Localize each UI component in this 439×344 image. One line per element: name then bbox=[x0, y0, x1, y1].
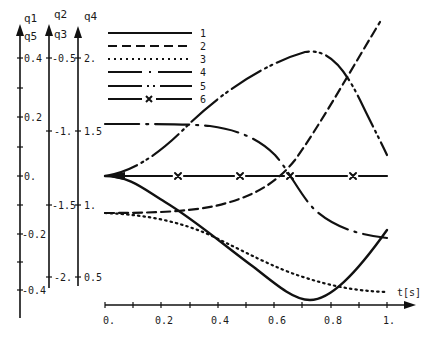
y-axis-q2: q2 q3 -0.5 -1. -1.5 -2. bbox=[45, 8, 76, 288]
legend bbox=[108, 33, 192, 102]
arrow-up-icon bbox=[45, 24, 53, 36]
axis-label-q4: q4 bbox=[84, 10, 98, 23]
tick-label: 0.2 bbox=[155, 315, 173, 326]
tick-label: 0.4 bbox=[24, 53, 42, 64]
x-axis: 0. 0.2 0.4 0.6 0.8 1. t[s] bbox=[103, 287, 421, 326]
arrow-right-icon bbox=[404, 301, 416, 309]
tick-label: -0.5 bbox=[52, 53, 76, 64]
tick-label: -2. bbox=[54, 272, 72, 283]
legend-labels: 1 2 3 4 5 6 bbox=[200, 28, 206, 105]
arrow-up-icon bbox=[16, 24, 24, 36]
axis-label-q2: q2 bbox=[54, 8, 67, 21]
legend-label: 2 bbox=[200, 41, 206, 52]
series-4 bbox=[105, 124, 387, 238]
arrow-up-icon bbox=[74, 26, 82, 38]
series-5 bbox=[105, 52, 387, 176]
tick-label: -0.2 bbox=[22, 229, 46, 240]
axis-label-q5: q5 bbox=[24, 30, 37, 43]
tick-label: 0.4 bbox=[211, 315, 229, 326]
tick-label: 0. bbox=[24, 171, 36, 182]
tick-label: -0.4 bbox=[22, 285, 46, 296]
curves bbox=[105, 22, 387, 300]
tick-label: 1. bbox=[84, 200, 96, 211]
tick-label: 0.5 bbox=[84, 272, 102, 283]
tick-label: 1. bbox=[383, 315, 395, 326]
axis-label-q3: q3 bbox=[54, 28, 67, 41]
legend-label: 4 bbox=[200, 67, 206, 78]
chart: q1 q5 0.4 0.2 0. -0.2 -0.4 q2 q3 bbox=[0, 0, 439, 344]
legend-label: 3 bbox=[200, 54, 206, 65]
legend-label: 1 bbox=[200, 28, 206, 39]
tick-label: -1.5 bbox=[52, 200, 76, 211]
y-axis-q1: q1 q5 0.4 0.2 0. -0.2 -0.4 bbox=[16, 12, 46, 318]
series-1 bbox=[105, 176, 387, 300]
axis-label-q1: q1 bbox=[24, 12, 37, 25]
tick-label: 0. bbox=[103, 315, 115, 326]
tick-label: 0.6 bbox=[268, 315, 286, 326]
series-2 bbox=[105, 22, 380, 213]
y-axis-q4: q4 2. 1.5 1. 0.5 bbox=[74, 10, 102, 286]
x-axis-label: t[s] bbox=[397, 287, 421, 298]
tick-label: 2. bbox=[84, 53, 96, 64]
tick-label: 0.2 bbox=[24, 112, 42, 123]
legend-label: 6 bbox=[200, 94, 206, 105]
tick-label: -1. bbox=[54, 126, 72, 137]
tick-label: 0.8 bbox=[324, 315, 342, 326]
tick-label: 1.5 bbox=[84, 126, 102, 137]
legend-label: 5 bbox=[200, 81, 206, 92]
